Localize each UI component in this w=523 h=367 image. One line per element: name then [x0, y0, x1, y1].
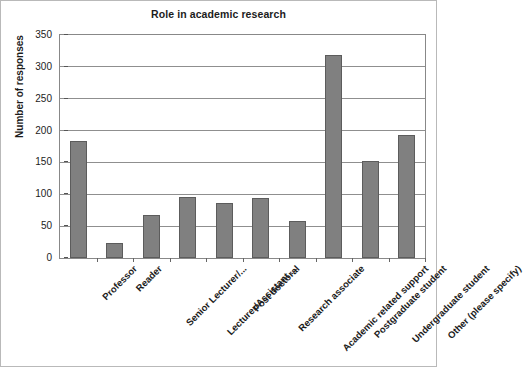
bar	[179, 197, 196, 258]
y-axis-tick-mark	[64, 257, 68, 258]
x-axis-tick-mark	[97, 258, 98, 262]
x-axis-tick-mark	[170, 258, 171, 262]
bar	[216, 203, 233, 258]
x-axis-tick-mark	[243, 258, 244, 262]
bar	[362, 161, 379, 258]
y-axis-tick-label: 250	[12, 92, 52, 103]
x-axis-category-label: Reader	[133, 263, 164, 294]
y-axis-tick-label: 100	[12, 188, 52, 199]
x-axis-tick-mark	[389, 258, 390, 262]
x-axis-category-label: Post doctoral	[251, 263, 302, 314]
y-axis-tick-label: 150	[12, 156, 52, 167]
chart-title: Role in academic research	[1, 8, 436, 20]
gridline	[60, 130, 425, 131]
bar	[398, 135, 415, 258]
bar	[252, 198, 269, 258]
y-axis-tick-label: 350	[12, 29, 52, 40]
y-axis-tick-label: 0	[12, 252, 52, 263]
y-axis-tick-label: 300	[12, 60, 52, 71]
x-axis-tick-mark	[425, 258, 426, 262]
y-axis-tick-mark	[64, 161, 68, 162]
x-axis-tick-mark	[279, 258, 280, 262]
bar	[70, 141, 87, 258]
gridline	[60, 66, 425, 67]
y-axis-tick-mark	[64, 193, 68, 194]
y-axis-tick-mark	[64, 130, 68, 131]
x-axis-tick-mark	[206, 258, 207, 262]
y-axis-tick-mark	[64, 34, 68, 35]
y-axis-tick-mark	[64, 66, 68, 67]
bar	[325, 55, 342, 258]
x-axis-tick-mark	[352, 258, 353, 262]
plot-area	[59, 34, 426, 259]
bar	[106, 243, 123, 258]
bar	[289, 221, 306, 258]
gridline	[60, 98, 425, 99]
y-axis-tick-mark	[64, 225, 68, 226]
x-axis-tick-mark	[133, 258, 134, 262]
x-axis-category-label: Research associate	[296, 263, 367, 334]
y-axis-tick-label: 200	[12, 124, 52, 135]
x-axis-category-label: Professor	[100, 263, 139, 302]
y-axis-tick-mark	[64, 98, 68, 99]
y-axis-tick-label: 50	[12, 220, 52, 231]
bar	[143, 215, 160, 258]
x-axis-tick-mark	[316, 258, 317, 262]
